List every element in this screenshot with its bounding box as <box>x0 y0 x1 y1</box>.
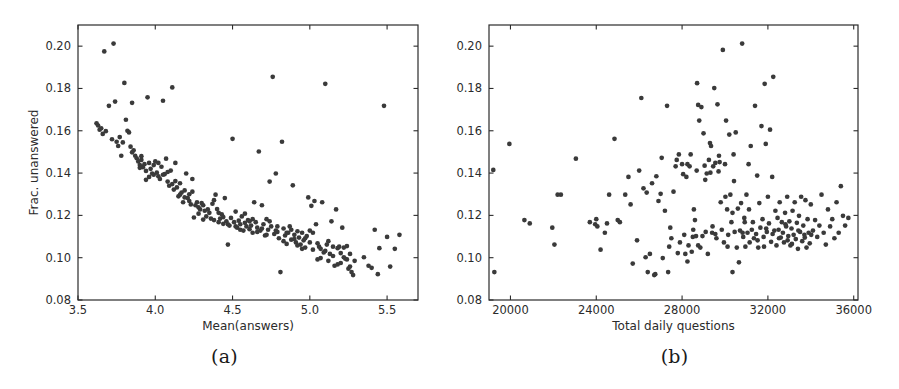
data-point <box>689 249 694 254</box>
data-point <box>161 98 166 103</box>
data-point <box>190 177 195 182</box>
data-point <box>273 171 278 176</box>
data-point <box>795 220 800 225</box>
plot-frame <box>78 25 418 300</box>
data-point <box>113 99 118 104</box>
data-point <box>311 247 316 252</box>
data-point <box>238 227 243 232</box>
y-axis-label: Frac. unanswered <box>27 110 41 216</box>
data-point <box>790 208 795 213</box>
data-point <box>761 235 766 240</box>
data-point <box>130 101 135 106</box>
data-point <box>297 235 302 240</box>
data-point <box>770 232 775 237</box>
scatter-plot-a: 3.54.04.55.05.50.080.100.120.140.160.180… <box>0 0 449 389</box>
data-point <box>221 215 226 220</box>
data-point <box>635 238 640 243</box>
data-point <box>811 228 816 233</box>
data-point <box>715 102 720 107</box>
data-point <box>758 225 763 230</box>
data-point <box>730 270 735 275</box>
data-point <box>695 81 700 86</box>
data-point <box>159 164 164 169</box>
data-point <box>645 270 650 275</box>
data-point <box>392 246 397 251</box>
data-point <box>522 218 527 223</box>
data-point <box>808 202 813 207</box>
y-tick-label: 0.08 <box>456 293 482 307</box>
data-point <box>303 236 308 241</box>
data-point <box>212 198 217 203</box>
data-point <box>587 220 592 225</box>
data-point <box>688 152 693 157</box>
data-point <box>665 103 670 108</box>
data-point <box>628 202 633 207</box>
data-point <box>785 194 790 199</box>
data-point <box>707 158 712 163</box>
data-point <box>178 181 183 186</box>
data-point <box>813 218 818 223</box>
data-point <box>267 179 272 184</box>
data-point <box>783 211 788 216</box>
data-point <box>819 192 824 197</box>
data-point <box>821 230 826 235</box>
data-point <box>838 184 843 189</box>
data-point <box>277 236 282 241</box>
data-point <box>281 239 286 244</box>
data-point <box>229 216 234 221</box>
data-point <box>673 164 678 169</box>
data-point <box>739 201 744 206</box>
data-point <box>187 199 192 204</box>
data-point <box>644 190 649 195</box>
data-point <box>491 168 496 173</box>
data-point <box>552 242 557 247</box>
x-tick-label: 4.0 <box>146 303 164 317</box>
data-point <box>307 240 312 245</box>
y-tick-label: 0.18 <box>456 81 482 95</box>
data-point <box>192 215 197 220</box>
data-point <box>639 96 644 101</box>
data-point <box>717 160 722 165</box>
data-point <box>693 218 698 223</box>
y-tick-label: 0.16 <box>456 124 482 138</box>
data-point <box>694 168 699 173</box>
data-point <box>799 194 804 199</box>
data-point <box>725 244 730 249</box>
data-point <box>807 241 812 246</box>
data-point <box>233 224 238 229</box>
data-point <box>826 207 831 212</box>
data-point <box>348 252 353 257</box>
data-point <box>182 195 187 200</box>
data-point <box>728 192 733 197</box>
data-point <box>151 163 156 168</box>
data-point <box>667 244 672 249</box>
x-axis-label: Total daily questions <box>611 319 735 333</box>
data-point <box>295 243 300 248</box>
data-point <box>345 257 350 262</box>
data-point <box>315 241 320 246</box>
data-point <box>686 243 691 248</box>
data-point <box>742 220 747 225</box>
panel-a-caption: (a) <box>0 345 461 367</box>
data-point <box>147 161 152 166</box>
data-point <box>232 220 237 225</box>
figure-container: 3.54.04.55.05.50.080.100.120.140.160.180… <box>0 0 899 389</box>
data-point <box>280 139 285 144</box>
data-point <box>724 118 729 123</box>
data-point <box>270 74 275 79</box>
data-point <box>733 130 738 135</box>
data-point <box>351 273 356 278</box>
data-point <box>809 233 814 238</box>
data-point <box>340 225 345 230</box>
data-point <box>230 136 235 141</box>
data-point <box>145 95 150 100</box>
y-tick-label: 0.20 <box>45 39 71 53</box>
data-point <box>130 150 135 155</box>
data-point <box>216 211 221 216</box>
data-point <box>318 256 323 261</box>
data-point <box>117 135 122 140</box>
y-tick-label: 0.14 <box>456 166 482 180</box>
data-point <box>763 142 768 147</box>
x-tick-label: 28000 <box>664 303 701 317</box>
data-point <box>99 126 104 131</box>
